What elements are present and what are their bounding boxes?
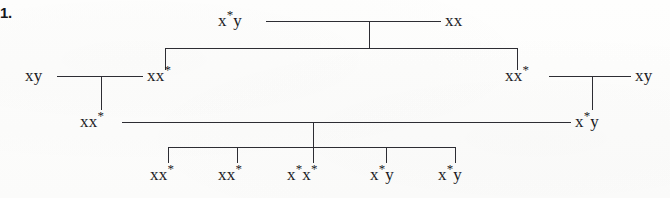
tree-node-n7: xx* — [80, 113, 104, 130]
superscript-star: * — [379, 161, 386, 176]
superscript-star: * — [167, 161, 174, 176]
superscript-star: * — [311, 161, 318, 176]
superscript-star: * — [447, 161, 454, 176]
superscript-star: * — [522, 62, 529, 77]
superscript-star: * — [296, 161, 303, 176]
tree-node-n4: xx* — [147, 67, 171, 84]
tree-leaf-n12: x*y — [370, 166, 394, 183]
superscript-star: * — [164, 62, 171, 77]
tree-leaf-n11: x*x* — [287, 166, 317, 183]
tree-node-n2: xx — [445, 12, 462, 29]
tree-node-n8: x*y — [575, 113, 599, 130]
tree-node-n5: xx* — [505, 67, 529, 84]
tree-node-n3: xy — [25, 67, 42, 84]
tree-edges — [0, 0, 670, 198]
superscript-star: * — [227, 7, 234, 22]
superscript-star: * — [584, 108, 591, 123]
diagram-canvas: 1. x*y xx xy xx* xx* xy xx* — [0, 0, 670, 198]
tree-leaf-n10: xx* — [218, 166, 242, 183]
superscript-star: * — [97, 108, 104, 123]
tree-node-n6: xy — [635, 67, 652, 84]
tree-node-n1: x*y — [218, 12, 242, 29]
tree-leaf-n9: xx* — [150, 166, 174, 183]
tree-leaf-n13: x*y — [438, 166, 462, 183]
superscript-star: * — [235, 161, 242, 176]
